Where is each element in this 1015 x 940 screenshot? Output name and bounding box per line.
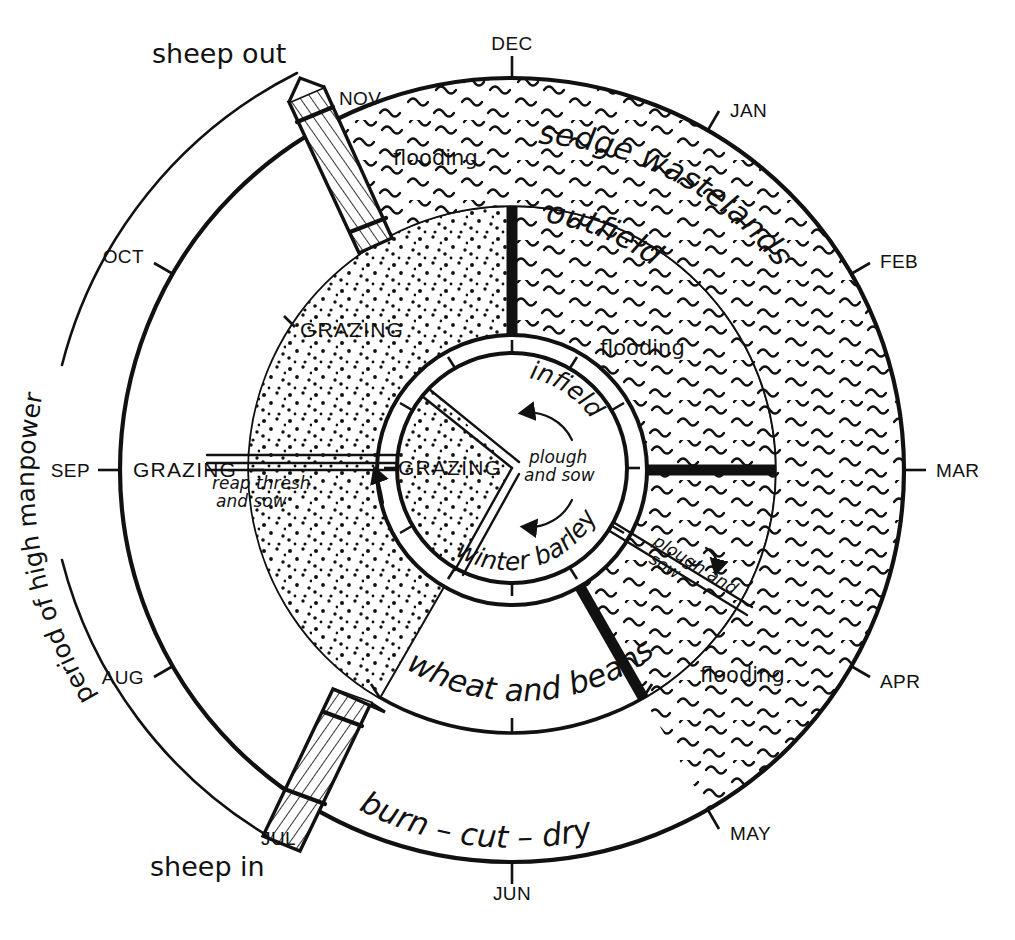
month-label-aug: AUG	[102, 667, 144, 688]
sheep-in-bar: sheep in	[150, 689, 385, 882]
sheep-in-bar-body	[263, 689, 371, 851]
month-label-mar: MAR	[936, 460, 979, 481]
month-label-oct: OCT	[103, 246, 144, 267]
plough-sow-arrow-upper	[522, 413, 572, 440]
month-label-jul: JUL	[261, 828, 296, 849]
month-label-feb: FEB	[880, 251, 918, 272]
plough-and-sow-label-line1: plough	[528, 447, 587, 467]
reap-thresh-label-line1: reap thresh	[212, 473, 311, 493]
period-of-high-manpower-label: period of high manpower	[11, 389, 100, 709]
sheep-in-label: sheep in	[150, 851, 265, 882]
month-label-may: MAY	[730, 823, 771, 844]
month-label-nov: NOV	[339, 88, 381, 109]
inner-disc-infield: infield winter barley GRAZING plough and…	[384, 340, 640, 596]
month-label-jun: JUN	[493, 883, 531, 904]
month-label-sep: SEP	[51, 460, 90, 481]
figure-root: sedge wastelands flooding burn – cut – d…	[0, 0, 1015, 940]
middle-grazing-label-upper: GRAZING	[300, 318, 404, 341]
middle-flooding-label-top: flooding	[600, 336, 685, 360]
manpower-arc-upper	[62, 73, 297, 365]
month-label-apr: APR	[880, 671, 920, 692]
sheep-out-label: sheep out	[152, 38, 286, 69]
inner-grazing-label: GRAZING	[398, 456, 502, 479]
middle-flooding-label-bottom: flooding	[700, 663, 785, 687]
inner-grazing-fill-2	[400, 388, 512, 570]
reap-thresh-label-line2: and sow	[216, 491, 287, 511]
month-label-jan: JAN	[730, 100, 767, 121]
month-label-dec: DEC	[491, 33, 532, 54]
outer-flooding-label-top: flooding	[393, 146, 478, 170]
agricultural-year-diagram: sedge wastelands flooding burn – cut – d…	[0, 0, 1015, 940]
plough-and-sow-label-line2: and sow	[524, 465, 595, 485]
